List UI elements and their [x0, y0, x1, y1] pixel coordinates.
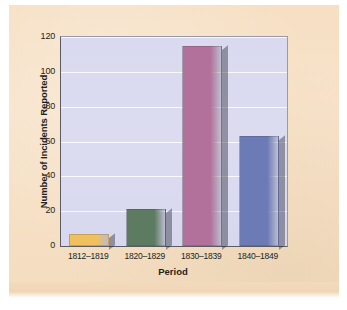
- y-axis-tick-label: 120: [29, 31, 55, 41]
- x-axis-tick-label: 1812–1819: [60, 251, 117, 261]
- y-axis-tick-labels: 020406080100120: [29, 0, 55, 310]
- y-axis-tick-label: 60: [29, 136, 55, 146]
- bar-shadow-side: [109, 233, 115, 250]
- x-axis-tick-label: 1820–1829: [117, 251, 174, 261]
- y-axis-tick-label: 0: [29, 240, 55, 250]
- bar-shadow-side: [222, 45, 228, 250]
- x-axis-tick-label: 1840–1849: [230, 251, 287, 261]
- bar: [239, 136, 279, 246]
- y-axis-tick-label: 20: [29, 205, 55, 215]
- plot-area: [60, 36, 288, 247]
- bar-shadow-side: [166, 209, 172, 250]
- x-axis-tick-label: 1830–1839: [173, 251, 230, 261]
- bar-face: [126, 209, 166, 246]
- gridline: [61, 107, 287, 108]
- bar-shadow-side: [279, 136, 285, 250]
- gridline: [61, 37, 287, 38]
- bar: [126, 209, 166, 246]
- bar: [69, 234, 109, 246]
- y-axis-tick-label: 100: [29, 66, 55, 76]
- x-axis-title: Period: [60, 266, 286, 277]
- gridline: [61, 72, 287, 73]
- bar-face: [239, 136, 279, 246]
- bar-chart: Number of Incidents Reported 02040608010…: [0, 0, 347, 310]
- chart-screenshot: Number of Incidents Reported 02040608010…: [0, 0, 347, 310]
- y-axis-tick-label: 80: [29, 101, 55, 111]
- bar: [182, 46, 222, 246]
- y-axis-tick-label: 40: [29, 170, 55, 180]
- bar-face: [69, 234, 109, 246]
- bar-face: [182, 46, 222, 246]
